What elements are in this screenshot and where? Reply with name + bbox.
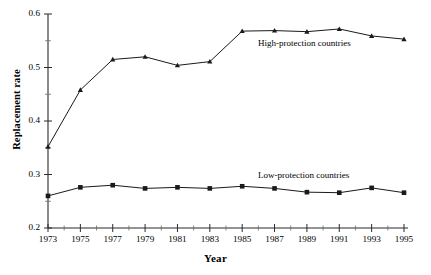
x-tick-label: 1995: [387, 234, 421, 244]
y-tick-label: 0.4: [14, 115, 40, 125]
x-tick-label: 1985: [225, 234, 259, 244]
x-axis-title: Year: [0, 252, 431, 264]
y-tick-label: 0.2: [14, 222, 40, 232]
x-tick-label: 1987: [258, 234, 292, 244]
x-tick-label: 1981: [160, 234, 194, 244]
x-tick-label: 1977: [96, 234, 130, 244]
x-tick-label: 1979: [128, 234, 162, 244]
y-tick-label: 0.6: [14, 8, 40, 18]
series-annotation: High-protection countries: [258, 38, 351, 48]
series-markers: [45, 26, 406, 198]
series-annotation: Low-protection countries: [258, 170, 349, 180]
x-tick-label: 1993: [355, 234, 389, 244]
x-tick-label: 1975: [63, 234, 97, 244]
chart-figure: Replacement rate Year 0.20.30.40.50.6 19…: [0, 0, 431, 275]
x-tick-label: 1989: [290, 234, 324, 244]
axis-lines: [48, 14, 408, 228]
y-tick-label: 0.3: [14, 169, 40, 179]
x-tick-label: 1983: [193, 234, 227, 244]
x-tick-label: 1991: [322, 234, 356, 244]
x-tick-label: 1973: [31, 234, 65, 244]
series-lines: [48, 29, 404, 196]
y-tick-label: 0.5: [14, 62, 40, 72]
